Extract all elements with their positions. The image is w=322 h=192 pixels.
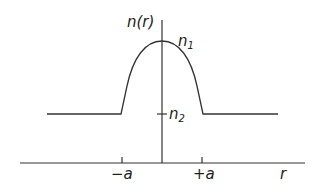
minus-a-label: −a xyxy=(111,165,133,183)
peak-label-main: n xyxy=(178,32,188,50)
y-axis-label: n(r) xyxy=(127,13,154,31)
index-profile-diagram: n(r) n1 n2 −a +a r xyxy=(0,0,322,192)
cladding-label-main: n xyxy=(169,105,179,123)
cladding-label: n2 xyxy=(169,105,185,124)
plus-a-label: +a xyxy=(193,165,215,183)
cladding-label-sub: 2 xyxy=(179,113,185,124)
peak-label: n1 xyxy=(178,32,194,51)
x-axis-label: r xyxy=(280,165,287,183)
peak-label-sub: 1 xyxy=(188,40,194,51)
